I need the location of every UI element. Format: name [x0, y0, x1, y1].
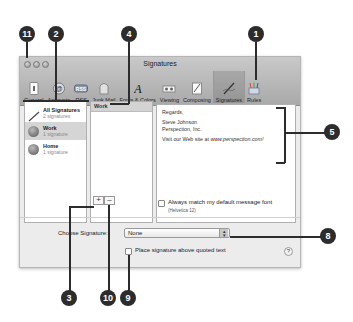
callout-line	[23, 100, 89, 102]
callout-4: 4	[121, 26, 137, 42]
callout-line	[285, 132, 325, 134]
callout-line	[110, 103, 129, 105]
account-count: 2 signatures	[43, 113, 80, 119]
match-font-checkbox[interactable]	[158, 200, 165, 207]
toolbar-label: Signatures	[216, 97, 242, 103]
toolbar-signatures[interactable]: Signatures	[213, 71, 245, 103]
account-avatar-icon	[28, 144, 39, 155]
toolbar-viewing[interactable]: Viewing	[158, 71, 181, 103]
viewing-icon	[162, 82, 176, 95]
callout-9: 9	[120, 290, 136, 306]
callout-11: 11	[19, 26, 35, 42]
callout-line	[108, 205, 110, 291]
signatures-icon	[222, 82, 236, 95]
callout-line	[128, 255, 130, 291]
callout-line	[230, 236, 321, 238]
remove-signature-button[interactable]: –	[104, 196, 115, 205]
select-arrows-icon: ▴▾	[219, 229, 228, 237]
composing-icon	[190, 82, 204, 95]
account-count: 1 signature	[43, 149, 68, 155]
svg-text:A: A	[133, 82, 142, 95]
callout-line	[55, 42, 57, 100]
callout-5: 5	[324, 124, 340, 140]
choose-signature-select[interactable]: None ▴▾	[124, 228, 230, 238]
account-count: 1 signature	[43, 131, 68, 137]
help-button[interactable]: ?	[284, 247, 293, 256]
fonts-colors-icon: A	[131, 82, 145, 95]
preview-line: Visit our Web site at	[162, 136, 210, 142]
callout-line	[255, 42, 257, 80]
preview-link: www.perspection.com!	[210, 136, 263, 142]
callout-line	[276, 162, 285, 164]
callout-line	[26, 42, 28, 58]
toolbar-fonts-colors[interactable]: A Fonts & Colors	[117, 71, 157, 103]
callout-line	[284, 107, 286, 163]
rules-icon	[247, 82, 261, 95]
general-icon	[27, 82, 41, 95]
choose-signature-label: Choose Signature:	[58, 230, 108, 236]
rss-icon: RSS	[74, 82, 88, 95]
preview-line: Perspection, Inc.	[162, 126, 290, 132]
toolbar-general[interactable]: General	[22, 71, 46, 103]
callout-line	[276, 107, 285, 109]
callout-1: 1	[248, 26, 264, 42]
callout-3: 3	[61, 290, 77, 306]
signature-preview[interactable]: Regards, Steve Johnson Perspection, Inc.…	[156, 104, 296, 223]
pen-icon	[28, 108, 40, 119]
toolbar-label: Viewing	[160, 97, 179, 103]
callout-line	[69, 206, 94, 208]
toolbar-rss[interactable]: RSS RSS	[72, 71, 90, 103]
svg-text:RSS: RSS	[76, 86, 87, 92]
account-item-work[interactable]: Work 1 signature	[25, 122, 86, 140]
toolbar-label: Composing	[183, 97, 211, 103]
account-avatar-icon	[28, 126, 39, 137]
choose-signature-value: None	[128, 230, 142, 236]
junk-mail-icon	[97, 82, 111, 95]
account-item-home[interactable]: Home 1 signature	[25, 140, 86, 158]
callout-line	[69, 206, 71, 291]
toolbar-junk-mail[interactable]: Junk Mail	[90, 71, 117, 103]
divider	[20, 217, 300, 218]
toolbar-composing[interactable]: Composing	[181, 71, 213, 103]
toolbar-accounts[interactable]: @ Accounts	[46, 71, 73, 103]
callout-2: 2	[48, 26, 64, 42]
place-above-label: Place signature above quoted text	[135, 247, 226, 253]
place-above-checkbox[interactable]	[125, 248, 132, 255]
accounts-list[interactable]: All Signatures 2 signatures Work 1 signa…	[24, 101, 87, 223]
accounts-icon: @	[52, 82, 66, 95]
match-font-sub: (Helvetica 12)	[168, 208, 196, 213]
preview-line: Regards,	[162, 109, 290, 115]
callout-line	[128, 42, 130, 104]
window-title: Signatures	[20, 60, 300, 67]
title-bar: Signatures General @ Accounts RSS RSS	[20, 57, 300, 106]
callout-8: 8	[320, 228, 336, 244]
callout-10: 10	[100, 290, 116, 306]
toolbar-label: Rules	[247, 97, 261, 103]
toolbar: General @ Accounts RSS RSS Junk Mail	[22, 71, 298, 103]
add-signature-button[interactable]: +	[93, 196, 104, 205]
match-font-label: Always match my default message font	[168, 199, 272, 205]
account-item-all-signatures[interactable]: All Signatures 2 signatures	[25, 104, 86, 122]
